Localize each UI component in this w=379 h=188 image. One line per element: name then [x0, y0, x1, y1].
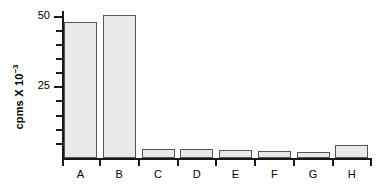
y-axis-minor-tick	[56, 58, 63, 60]
x-axis-label-a: A	[64, 168, 97, 180]
x-axis-origin-tick	[62, 158, 64, 166]
x-axis-tick	[370, 158, 372, 166]
plot-area: 2550 ABCDEFGH	[62, 8, 372, 160]
x-axis-label-g: G	[297, 168, 330, 180]
y-axis-minor-tick	[56, 129, 63, 131]
bar-c	[142, 149, 175, 158]
bar-g	[297, 152, 330, 158]
x-axis-tick	[99, 158, 101, 166]
x-axis-label-e: E	[219, 168, 252, 180]
x-axis-tick	[293, 158, 295, 166]
x-axis-tick	[254, 158, 256, 166]
y-axis-tick-label: 25	[38, 79, 50, 91]
y-axis-title-exponent: −3	[11, 64, 20, 73]
y-axis-title: cpms X 10−3	[14, 54, 25, 140]
bar-f	[258, 151, 291, 158]
y-axis-title-text: cpms X 10	[13, 73, 25, 129]
bar-chart-figure: cpms X 10−3 2550 ABCDEFGH	[0, 0, 379, 188]
bar-d	[180, 149, 213, 158]
y-axis-minor-tick	[56, 100, 63, 102]
bar-a	[64, 22, 97, 158]
y-axis-minor-tick	[56, 72, 63, 74]
bar-b	[103, 15, 136, 158]
y-axis-minor-tick	[56, 115, 63, 117]
y-axis-major-tick: 50	[54, 16, 63, 18]
bar-h	[335, 145, 368, 158]
x-axis-label-c: C	[142, 168, 175, 180]
x-axis-label-f: F	[258, 168, 291, 180]
y-axis-minor-tick	[56, 44, 63, 46]
x-axis-label-b: B	[103, 168, 136, 180]
x-axis-label-h: H	[335, 168, 368, 180]
bar-e	[219, 150, 252, 158]
x-axis-label-d: D	[180, 168, 213, 180]
x-axis-tick	[215, 158, 217, 166]
y-axis-minor-tick	[56, 30, 63, 32]
x-axis-tick	[332, 158, 334, 166]
y-axis-minor-tick	[56, 143, 63, 145]
x-axis-tick	[177, 158, 179, 166]
y-axis-major-tick: 25	[54, 86, 63, 88]
x-axis-tick	[138, 158, 140, 166]
y-axis-tick-label: 50	[38, 9, 50, 21]
